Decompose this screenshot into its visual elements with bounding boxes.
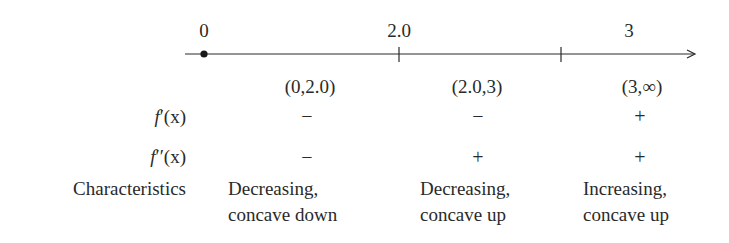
interval-3: (3,∞)	[622, 76, 662, 98]
second-derivative-sign-3: +	[634, 146, 645, 169]
characteristic-2-line1: Decreasing,	[420, 176, 510, 202]
characteristic-1-line2: concave down	[228, 202, 337, 228]
characteristic-1: Decreasing, concave down	[228, 176, 337, 228]
characteristic-1-line1: Decreasing,	[228, 176, 337, 202]
characteristic-3: Increasing, concave up	[583, 176, 669, 228]
axis-label-0: 0	[199, 20, 209, 42]
first-derivative-sign-2: −	[472, 105, 483, 128]
characteristic-3-line1: Increasing,	[583, 176, 669, 202]
axis-label-2: 2.0	[387, 20, 411, 42]
second-derivative-sign-1: −	[301, 146, 312, 169]
characteristics-label: Characteristics	[73, 176, 186, 202]
second-derivative-label: f′′(x)	[150, 146, 186, 168]
fn-arg: (x)	[164, 106, 186, 127]
prime-marks: ′′	[156, 146, 164, 167]
interval-2: (2.0,3)	[452, 76, 503, 98]
fn-arg: (x)	[164, 146, 186, 167]
interval-1: (0,2.0)	[285, 76, 336, 98]
characteristic-2: Decreasing, concave up	[420, 176, 510, 228]
second-derivative-sign-2: +	[472, 146, 483, 169]
first-derivative-sign-3: +	[634, 105, 645, 128]
first-derivative-sign-1: −	[301, 105, 312, 128]
axis-label-3: 3	[624, 20, 634, 42]
characteristic-3-line2: concave up	[583, 202, 669, 228]
critical-point-dot	[200, 50, 207, 57]
first-derivative-label: f′(x)	[154, 106, 186, 128]
characteristic-2-line2: concave up	[420, 202, 510, 228]
